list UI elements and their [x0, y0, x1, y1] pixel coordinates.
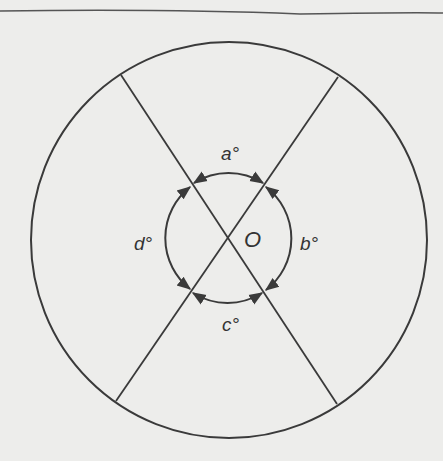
label-d: d° [134, 233, 153, 254]
label-a: a° [221, 143, 240, 164]
arc-d [165, 187, 190, 289]
arc-b [266, 187, 291, 290]
arc-a [194, 173, 263, 183]
arc-c [193, 293, 262, 303]
center-label: O [244, 227, 261, 252]
label-b: b° [300, 233, 319, 254]
page-top-rule [0, 10, 443, 14]
circle-diagram: a° b° c° d° O [0, 0, 443, 461]
label-c: c° [222, 314, 240, 335]
